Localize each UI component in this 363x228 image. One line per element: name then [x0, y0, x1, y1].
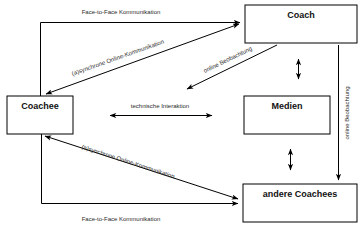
node-andere-coachees-label: andere Coachees	[263, 189, 338, 199]
edge-label-online-beobachtung-diagonal: online Beobachtung	[203, 45, 253, 74]
edge-online-beobachtung-diagonal	[187, 45, 277, 89]
edge-label-face-to-face-top: Face-to-Face Kommunikation	[82, 9, 161, 15]
node-coach[interactable]: Coach	[245, 5, 357, 43]
node-coachee-label: Coachee	[21, 101, 59, 111]
node-andere-coachees[interactable]: andere Coachees	[243, 184, 357, 222]
node-coachee[interactable]: Coachee	[7, 96, 73, 134]
edge-online-kommunikation-upper	[46, 24, 239, 94]
edge-label-online-beobachtung-vertical: online Beobachtung	[344, 86, 350, 139]
edge-label-online-kommunikation-lower: (a)synchrone Online-Kommunikation	[81, 144, 175, 180]
edge-label-face-to-face-bottom: Face-to-Face Kommunikation	[82, 216, 161, 222]
node-medien[interactable]: Medien	[244, 96, 330, 134]
edge-label-online-kommunikation-upper: (a)synchrone Online-Kommunikation	[71, 39, 165, 77]
diagram-svg: Coach Coachee Medien andere Coachees Fac…	[0, 0, 363, 228]
diagram-canvas: Coach Coachee Medien andere Coachees Fac…	[0, 0, 363, 228]
node-coach-label: Coach	[287, 10, 315, 20]
edge-label-technische-interaktion: technische Interaktion	[131, 103, 189, 109]
node-medien-label: Medien	[271, 101, 302, 111]
